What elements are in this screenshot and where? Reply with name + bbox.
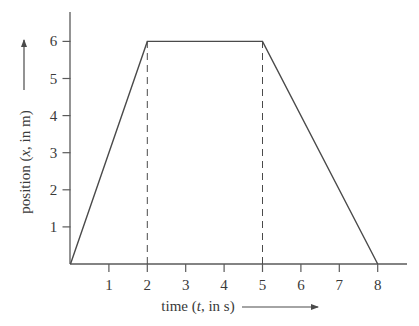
x-tick: 1 [105,264,113,293]
y-tick-label: 5 [50,71,58,87]
y-tick: 2 [50,182,71,198]
x-tick-label: 8 [374,277,382,293]
x-tick: 3 [182,264,190,293]
y-tick: 1 [50,219,71,235]
position-time-graph: 12345678 123456 position (x, in m) time … [0,0,419,326]
x-tick: 2 [144,264,152,293]
x-tick-label: 2 [144,277,152,293]
y-ticks: 123456 [50,33,71,235]
x-tick-label: 3 [182,277,190,293]
y-tick-label: 4 [50,108,58,124]
dashed-reference-lines [147,41,262,264]
x-tick: 7 [336,264,344,293]
x-tick-label: 7 [336,277,344,293]
plot-svg: 12345678 123456 position (x, in m) time … [0,0,419,326]
y-tick: 3 [50,145,71,161]
x-tick: 8 [374,264,382,293]
y-tick-label: 3 [50,145,58,161]
y-tick: 4 [50,108,71,124]
y-tick-label: 1 [50,219,58,235]
x-tick-label: 5 [259,277,267,293]
y-tick: 6 [50,33,71,49]
axes [70,12,407,264]
y-axis-label: position (x, in m) [17,110,34,213]
y-tick-label: 2 [50,182,58,198]
x-tick: 6 [297,264,305,293]
x-tick-label: 6 [297,277,305,293]
y-tick: 5 [50,71,71,87]
x-tick-label: 4 [220,277,228,293]
x-axis-label: time (t, in s) [161,298,234,315]
series-line [71,41,378,264]
x-tick: 5 [259,264,267,293]
y-tick-label: 6 [50,33,58,49]
x-tick-label: 1 [105,277,113,293]
x-tick: 4 [220,264,228,293]
x-ticks: 12345678 [105,264,381,293]
position-curve [71,41,378,264]
